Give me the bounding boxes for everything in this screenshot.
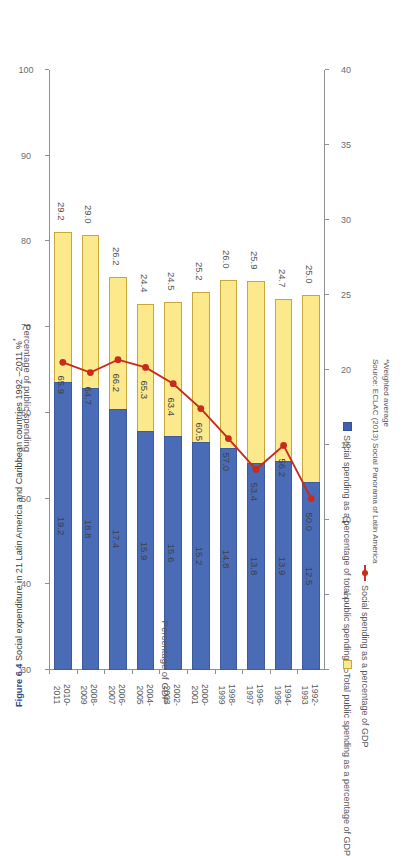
category-label: 1996-1997 <box>245 674 265 716</box>
legend-item-label: Social spending as a percentage of total… <box>342 435 352 660</box>
right-axis-tick <box>45 69 49 70</box>
category-label-line2: 1993 <box>300 685 310 704</box>
left-axis-tick <box>325 594 329 595</box>
category-label-line1: 1996- <box>255 684 265 706</box>
category-label-line2: 2007 <box>107 685 117 704</box>
category-axis-tick <box>104 670 105 674</box>
right-axis-tick <box>45 326 49 327</box>
left-axis-title: Percentage of GDP <box>160 621 171 703</box>
line-value-label-social-share: 65.9 <box>56 368 67 394</box>
category-label-line2: 1999 <box>217 685 227 704</box>
footnote-weighted-average: *Weighted average <box>381 359 392 759</box>
category-label: 2000-2001 <box>190 674 210 716</box>
category-label-line1: 2008- <box>89 684 99 706</box>
left-axis-tick <box>325 369 329 370</box>
bar-group: 19.229.265.9 <box>49 70 325 670</box>
right-axis-tick-label: 40 <box>15 579 37 589</box>
category-label-line1: 2002- <box>172 684 182 706</box>
category-label: 1998-1999 <box>217 674 237 716</box>
category-label: 1994-1995 <box>273 674 293 716</box>
figure-title-superscript: * <box>12 338 19 341</box>
right-axis-tick-label: 80 <box>15 236 37 246</box>
category-axis-tick <box>49 670 50 674</box>
category-axis-tick <box>242 670 243 674</box>
bar-value-label-social-spending: 19.2 <box>56 514 67 538</box>
category-axis-tick <box>270 670 271 674</box>
category-label-line2: 2001 <box>190 685 200 704</box>
category-axis-tick <box>77 670 78 674</box>
legend-item[interactable]: Total public spending as a percentage of… <box>342 660 352 856</box>
right-axis-tick <box>45 155 49 156</box>
category-label-line1: 2000- <box>200 684 210 706</box>
category-label: 2004-2005 <box>135 674 155 716</box>
right-axis-tick-label: 90 <box>15 151 37 161</box>
legend-item[interactable]: Social spending as a percentage of GDP <box>360 565 370 748</box>
legend-item-label: Total public spending as a percentage of… <box>342 673 352 856</box>
category-label: 2006-2007 <box>107 674 127 716</box>
right-axis-tick-label: 50 <box>15 494 37 504</box>
category-label: 2008-2009 <box>79 674 99 716</box>
category-label-line2: 2011 <box>52 686 62 704</box>
category-axis-tick <box>132 670 133 674</box>
category-label-line1: 2004- <box>145 684 155 706</box>
right-axis-title: Percentage of public spending <box>22 324 33 452</box>
category-axis-tick <box>215 670 216 674</box>
category-label-line1: 2006- <box>117 684 127 706</box>
legend-item[interactable]: Social spending as a percentage of total… <box>342 422 352 660</box>
figure-footnotes: *Weighted average Source: ECLAC (2013) S… <box>370 359 392 759</box>
plot-area: 12.525.050.013.924.756.213.825.953.414.8… <box>49 70 325 670</box>
left-axis-tick <box>325 144 329 145</box>
category-label-line1: 1998- <box>227 684 237 706</box>
category-axis-tick <box>187 670 188 674</box>
category-label: 2010-2011 <box>52 674 72 716</box>
blue-swatch-icon <box>343 422 352 431</box>
category-label: 1992-1993 <box>300 674 320 716</box>
category-label-line1: 1994- <box>283 684 293 706</box>
category-label-line1: 1992- <box>310 684 320 706</box>
legend-line-marker-icon <box>361 565 370 581</box>
left-axis-tick <box>325 219 329 220</box>
right-axis-tick <box>45 412 49 413</box>
legend-item-label: Social spending as a percentage of GDP <box>360 585 370 748</box>
right-axis-tick <box>45 583 49 584</box>
left-axis-tick <box>325 444 329 445</box>
category-label-line1: 2010- <box>62 684 72 706</box>
right-axis-tick-label: 30 <box>15 665 37 675</box>
category-label-line2: 2009 <box>79 685 89 704</box>
bar-series-layer: 12.525.050.013.924.756.213.825.953.414.8… <box>49 70 325 670</box>
bar-value-label-total-public-spending: 29.2 <box>56 202 67 228</box>
left-axis-tick <box>325 669 329 670</box>
left-axis-tick <box>325 69 329 70</box>
left-axis-tick <box>325 294 329 295</box>
left-axis-tick <box>325 519 329 520</box>
footnote-source: Source: ECLAC (2013) Social Panorama of … <box>370 359 381 759</box>
category-axis-tick <box>297 670 298 674</box>
yellow-swatch-icon <box>343 660 352 669</box>
category-label-line2: 2005 <box>135 685 145 704</box>
category-label-line2: 1997 <box>245 685 255 704</box>
right-axis-tick <box>45 498 49 499</box>
right-axis-tick-label: 100 <box>15 65 37 75</box>
category-label-line2: 1995 <box>273 685 283 704</box>
right-axis-tick <box>45 240 49 241</box>
